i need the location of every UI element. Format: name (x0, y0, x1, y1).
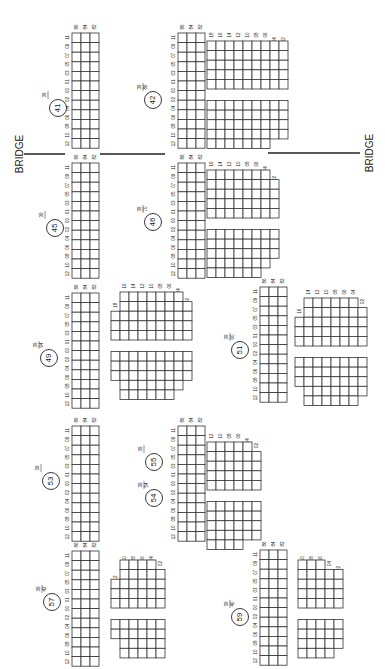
seat[interactable] (156, 598, 165, 608)
seat[interactable] (243, 511, 252, 521)
seat[interactable] (90, 110, 99, 120)
seat[interactable] (298, 598, 307, 608)
seat[interactable] (187, 240, 196, 250)
seat[interactable] (270, 70, 279, 80)
seat[interactable] (331, 358, 340, 368)
seat[interactable] (340, 336, 349, 346)
seat[interactable] (278, 325, 287, 335)
seat[interactable] (111, 371, 120, 381)
seat[interactable] (278, 608, 287, 618)
seat[interactable] (325, 598, 334, 608)
seat[interactable] (81, 240, 90, 250)
seat[interactable] (90, 129, 99, 139)
seat[interactable] (225, 208, 234, 218)
seat[interactable] (216, 170, 225, 180)
seat[interactable] (216, 41, 225, 51)
seat[interactable] (120, 380, 129, 390)
seat[interactable] (81, 322, 90, 332)
seat[interactable] (196, 211, 205, 221)
seat[interactable] (90, 91, 99, 101)
seat[interactable] (72, 230, 81, 240)
seat[interactable] (138, 292, 147, 302)
seat[interactable] (120, 570, 129, 580)
seat[interactable] (196, 129, 205, 139)
section-59[interactable]: 86848212100806040200010305070911593940 (224, 541, 287, 665)
seat[interactable] (90, 201, 99, 211)
seat[interactable] (340, 308, 349, 318)
seat[interactable] (207, 139, 216, 149)
seat[interactable] (178, 445, 187, 455)
seat[interactable] (298, 629, 307, 639)
seat[interactable] (279, 70, 288, 80)
seat[interactable] (196, 249, 205, 259)
seat[interactable] (340, 327, 349, 337)
seat[interactable] (304, 298, 313, 308)
seat[interactable] (234, 268, 243, 278)
seat[interactable] (207, 120, 216, 130)
seat[interactable] (178, 91, 187, 101)
seat[interactable] (156, 380, 165, 390)
seat[interactable] (331, 367, 340, 377)
seat[interactable] (81, 249, 90, 259)
seat[interactable] (252, 199, 261, 209)
seat[interactable] (225, 129, 234, 139)
seat[interactable] (138, 629, 147, 639)
seat[interactable] (216, 110, 225, 120)
seat[interactable] (243, 452, 252, 462)
seat[interactable] (129, 570, 138, 580)
seat[interactable] (322, 367, 331, 377)
seat[interactable] (147, 570, 156, 580)
seat[interactable] (316, 598, 325, 608)
seat[interactable] (90, 445, 99, 455)
seat[interactable] (81, 464, 90, 474)
seat[interactable] (111, 629, 120, 639)
seat[interactable] (243, 442, 252, 452)
seat[interactable] (298, 648, 307, 658)
seat[interactable] (120, 560, 129, 570)
seat[interactable] (295, 377, 304, 387)
seat[interactable] (340, 386, 349, 396)
seat[interactable] (243, 101, 252, 111)
seat[interactable] (260, 373, 269, 383)
seat[interactable] (90, 182, 99, 192)
seat[interactable] (252, 530, 261, 540)
seat[interactable] (252, 129, 261, 139)
seat[interactable] (81, 589, 90, 599)
seat[interactable] (349, 298, 358, 308)
seat[interactable] (278, 306, 287, 316)
seat[interactable] (234, 101, 243, 111)
seat[interactable] (187, 221, 196, 231)
seat[interactable] (81, 399, 90, 409)
seat[interactable] (225, 480, 234, 490)
seat[interactable] (120, 292, 129, 302)
seat[interactable] (183, 311, 192, 321)
seat[interactable] (196, 445, 205, 455)
seat[interactable] (81, 173, 90, 183)
section-55[interactable]: 5539 (138, 445, 162, 471)
seat[interactable] (270, 60, 279, 70)
section-42[interactable]: 86848212100806040200010305070911423986 (137, 24, 205, 148)
seat[interactable] (261, 189, 270, 199)
seat[interactable] (129, 361, 138, 371)
section-54[interactable]: 86848212100806040200010305070911543954 (138, 417, 205, 541)
seat[interactable] (81, 522, 90, 532)
seat[interactable] (178, 221, 187, 231)
seat[interactable] (120, 639, 129, 649)
seat[interactable] (90, 532, 99, 542)
seat[interactable] (261, 230, 270, 240)
seat[interactable] (72, 464, 81, 474)
seat[interactable] (72, 445, 81, 455)
seat[interactable] (138, 648, 147, 658)
seat[interactable] (174, 311, 183, 321)
seat[interactable] (278, 569, 287, 579)
seat[interactable] (261, 139, 270, 149)
seat[interactable] (252, 461, 261, 471)
seat[interactable] (178, 100, 187, 110)
seat[interactable] (358, 377, 367, 387)
seat[interactable] (129, 620, 138, 630)
seat[interactable] (216, 502, 225, 512)
seat[interactable] (216, 461, 225, 471)
seat[interactable] (234, 461, 243, 471)
seat[interactable] (81, 474, 90, 484)
seat[interactable] (81, 331, 90, 341)
